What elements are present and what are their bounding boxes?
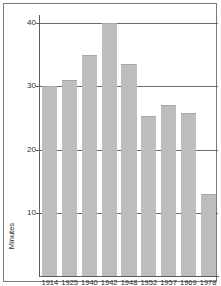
bar-1957 — [161, 105, 176, 276]
bar-1969 — [181, 113, 196, 276]
x-axis-tick-labels: 1914 1925 1940 1942 1948 1952 1957 1969 … — [40, 278, 218, 286]
bar-1952 — [141, 116, 156, 276]
chart-frame: 40 30 20 10 Minutes 1914 1925 1940 1942 … — [3, 3, 217, 282]
x-tick-label-1914: 1914 — [40, 278, 60, 286]
bar-series — [40, 4, 218, 276]
bar-1925 — [62, 80, 77, 276]
x-tick-label-1952: 1952 — [139, 278, 159, 286]
y-tick-label-30: 30 — [14, 82, 36, 90]
y-tick-label-40: 40 — [14, 19, 36, 27]
y-tick-label-10: 10 — [14, 209, 36, 217]
y-tick-label-20: 20 — [14, 146, 36, 154]
bar-1948 — [121, 64, 136, 276]
x-tick-label-1942: 1942 — [99, 278, 119, 286]
x-tick-label-1948: 1948 — [119, 278, 139, 286]
x-tick-label-1940: 1940 — [80, 278, 100, 286]
x-tick-label-1978: 1978 — [198, 278, 218, 286]
bar-1940 — [82, 55, 97, 276]
x-tick-label-1925: 1925 — [60, 278, 80, 286]
bar-1914 — [42, 86, 57, 276]
y-axis-title: Minutes — [8, 214, 16, 258]
x-tick-label-1969: 1969 — [178, 278, 198, 286]
bar-1942 — [102, 23, 117, 276]
bar-1978 — [201, 194, 216, 276]
x-tick-label-1957: 1957 — [159, 278, 179, 286]
x-axis-line — [39, 276, 219, 277]
